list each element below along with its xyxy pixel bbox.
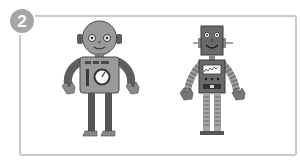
square-head-robot: [180, 26, 245, 135]
robots-illustration: [0, 0, 300, 160]
round-head-robot: [62, 21, 139, 136]
